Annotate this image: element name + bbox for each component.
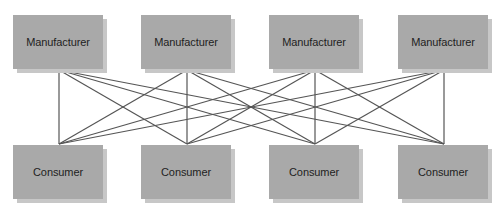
consumer-node-4: Consumer [398, 145, 488, 199]
node-box: Consumer [13, 145, 103, 199]
manufacturer-node-3: Manufacturer [269, 15, 359, 69]
manufacturer-label: Manufacturer [26, 36, 90, 48]
manufacturer-node-4: Manufacturer [398, 15, 488, 69]
manufacturer-label: Manufacturer [154, 36, 218, 48]
consumer-label: Consumer [418, 166, 468, 178]
node-box: Manufacturer [398, 15, 488, 69]
node-box: Consumer [398, 145, 488, 199]
node-box: Manufacturer [13, 15, 103, 69]
consumer-label: Consumer [161, 166, 211, 178]
consumer-label: Consumer [33, 166, 83, 178]
consumer-label: Consumer [289, 166, 339, 178]
manufacturer-node-1: Manufacturer [13, 15, 103, 69]
consumer-node-3: Consumer [269, 145, 359, 199]
manufacturer-label: Manufacturer [282, 36, 346, 48]
manufacturer-label: Manufacturer [411, 36, 475, 48]
node-box: Consumer [141, 145, 231, 199]
consumer-node-2: Consumer [141, 145, 231, 199]
node-box: Manufacturer [141, 15, 231, 69]
manufacturer-node-2: Manufacturer [141, 15, 231, 69]
consumer-node-1: Consumer [13, 145, 103, 199]
node-box: Manufacturer [269, 15, 359, 69]
node-box: Consumer [269, 145, 359, 199]
many-to-many-diagram: Manufacturer Manufacturer Manufacturer M… [0, 0, 503, 215]
